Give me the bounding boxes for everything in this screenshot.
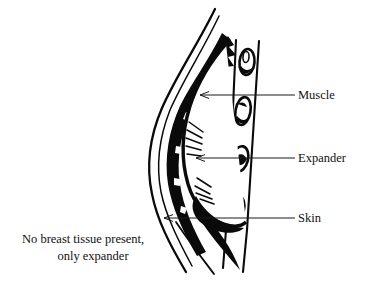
- muscle-notch-highlight-4: [174, 178, 180, 186]
- expander-body: [183, 44, 246, 233]
- label-expander: Expander: [298, 152, 346, 165]
- caption-line-1: No breast tissue present,: [22, 231, 182, 248]
- label-muscle: Muscle: [298, 89, 335, 102]
- muscle-notch-highlight-3: [175, 146, 182, 154]
- rib-1: [238, 48, 255, 75]
- rib-2: [233, 96, 253, 126]
- label-skin: Skin: [298, 212, 321, 225]
- expander-outline: [183, 44, 246, 226]
- figure-caption: No breast tissue present, only expander: [22, 231, 182, 265]
- figure-root: Muscle Expander Skin No breast tissue pr…: [0, 0, 365, 285]
- caption-line-2: only expander: [22, 248, 182, 265]
